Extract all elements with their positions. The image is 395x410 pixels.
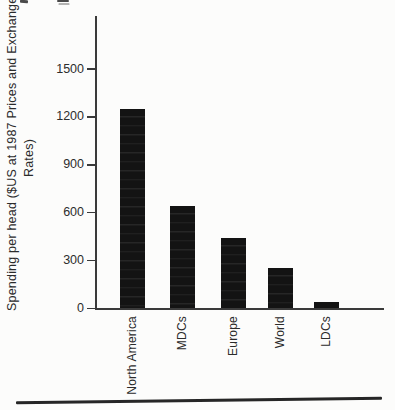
figure-canvas: Spending per head ($US at 1987 Prices an… bbox=[0, 0, 395, 410]
y-tick-mark-0 bbox=[87, 308, 95, 310]
x-label-ldcs: LDCs bbox=[319, 316, 334, 406]
y-tick-label-1200: 1200 bbox=[50, 109, 84, 124]
y-tick-label-600: 600 bbox=[50, 205, 84, 220]
bar-europe bbox=[221, 238, 246, 308]
y-tick-label-1500: 1500 bbox=[50, 62, 84, 77]
scan-artifact-mark bbox=[20, 0, 28, 3]
y-tick-mark-1500 bbox=[87, 68, 95, 70]
scan-artifact-mark bbox=[57, 0, 69, 2]
y-axis-title: Spending per head ($US at 1987 Prices an… bbox=[4, 5, 40, 311]
y-tick-label-0: 0 bbox=[50, 301, 84, 316]
x-label-north-america: North America bbox=[125, 316, 140, 406]
bar-north-america bbox=[120, 109, 145, 309]
y-tick-mark-900 bbox=[87, 164, 95, 166]
x-label-world: World bbox=[273, 316, 288, 406]
x-label-europe: Europe bbox=[226, 316, 241, 406]
y-tick-label-300: 300 bbox=[50, 253, 84, 268]
y-axis-line bbox=[95, 16, 97, 309]
y-axis-title-line1: Spending per head ($US at 1987 Prices an… bbox=[4, 5, 21, 311]
bar-world bbox=[268, 268, 293, 309]
y-axis-title-line2: Rates) bbox=[21, 5, 38, 311]
y-tick-mark-300 bbox=[87, 260, 95, 262]
bar-mdcs bbox=[170, 206, 195, 308]
y-tick-mark-600 bbox=[87, 212, 95, 214]
y-tick-label-900: 900 bbox=[50, 157, 84, 172]
y-tick-mark-1200 bbox=[87, 116, 95, 118]
x-label-mdcs: MDCs bbox=[175, 316, 190, 406]
bar-ldcs bbox=[314, 302, 339, 308]
